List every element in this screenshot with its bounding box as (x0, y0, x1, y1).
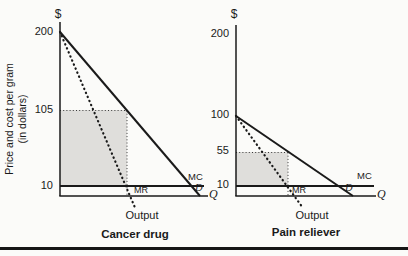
figure-monopoly-pricing: Price and cost per gram (in dollars) $ 2… (0, 0, 408, 256)
profit-area-left (60, 110, 127, 186)
demand-label-right: D (345, 183, 353, 194)
y-tick-200-right: 200 (203, 28, 229, 39)
profit-area-right (236, 152, 288, 186)
demand-label-left: D (195, 183, 203, 194)
y-tick-10-left: 10 (27, 180, 53, 191)
mr-label-right: MR (292, 186, 306, 195)
y-tick-10-right: 10 (203, 179, 229, 190)
quantity-axis-label-right: Q (377, 188, 386, 200)
bottom-rule (0, 247, 408, 250)
output-label-right: Output (282, 210, 342, 221)
y-axis-title-line2: (in dollars) (16, 44, 29, 194)
dollar-symbol-right: $ (226, 8, 242, 20)
caption-pain-reliever: Pain reliever (244, 226, 368, 238)
y-tick-105-left: 105 (27, 104, 53, 115)
mc-label-left: MC (188, 172, 203, 182)
caption-cancer-drug: Cancer drug (74, 228, 196, 240)
y-axis-title-line1: Price and cost per gram (3, 44, 16, 194)
y-tick-55-right: 55 (203, 145, 229, 156)
mr-label-left: MR (134, 186, 148, 195)
mc-label-right: MC (357, 171, 372, 181)
y-tick-200-left: 200 (27, 26, 53, 37)
y-tick-100-right: 100 (203, 109, 229, 120)
dollar-symbol-left: $ (50, 8, 66, 20)
y-axis-title: Price and cost per gram (in dollars) (3, 44, 33, 194)
output-label-left: Output (112, 210, 172, 221)
